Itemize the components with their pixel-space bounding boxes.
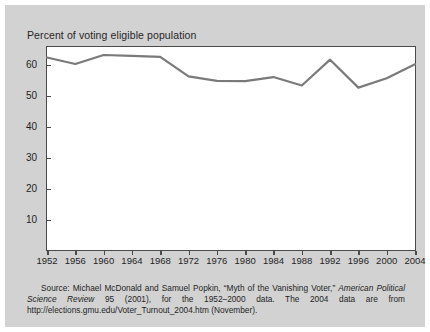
y-tick-label: 40 xyxy=(11,121,37,132)
x-tick-mark xyxy=(387,251,389,255)
x-tick-mark xyxy=(415,251,417,255)
x-tick-mark xyxy=(245,251,247,255)
y-tick-mark xyxy=(47,65,51,67)
figure-panel: Percent of voting eligible population 10… xyxy=(5,5,425,327)
source-label: Source: xyxy=(27,283,70,293)
x-tick-mark xyxy=(330,251,332,255)
chart-title: Percent of voting eligible population xyxy=(27,29,196,41)
source-text-1: Michael McDonald and Samuel Popkin, “Myt… xyxy=(70,283,339,293)
chart-plot-area xyxy=(46,46,416,251)
y-tick-label: 30 xyxy=(11,152,37,163)
source-note: Source: Michael McDonald and Samuel Popk… xyxy=(27,283,405,317)
x-tick-mark xyxy=(273,251,275,255)
y-tick-mark xyxy=(47,189,51,191)
y-tick-mark xyxy=(47,158,51,160)
x-tick-mark xyxy=(132,251,134,255)
y-tick-mark xyxy=(47,220,51,222)
y-tick-label: 50 xyxy=(11,90,37,101)
x-tick-mark xyxy=(302,251,304,255)
x-tick-mark xyxy=(358,251,360,255)
y-tick-label: 10 xyxy=(11,214,37,225)
x-tick-label: 2004 xyxy=(398,255,430,266)
x-tick-mark xyxy=(160,251,162,255)
y-tick-mark xyxy=(47,96,51,98)
y-tick-label: 60 xyxy=(11,59,37,70)
x-tick-mark xyxy=(217,251,219,255)
y-tick-label: 20 xyxy=(11,183,37,194)
y-tick-mark xyxy=(47,127,51,129)
x-tick-mark xyxy=(189,251,191,255)
turnout-line xyxy=(47,55,415,88)
x-tick-mark xyxy=(75,251,77,255)
x-tick-mark xyxy=(47,251,49,255)
x-tick-mark xyxy=(104,251,106,255)
